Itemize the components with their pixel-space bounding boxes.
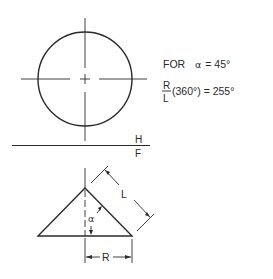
radius-label: R <box>102 251 110 263</box>
plane-label-f: F <box>135 148 141 159</box>
alpha-arrow-upper <box>98 206 102 211</box>
alpha-arrow-lower <box>89 230 93 235</box>
formula-expression: (360°) = 255° <box>172 85 234 97</box>
formula-numerator: R <box>163 80 170 91</box>
cone-drawing: H F FOR α = 45° R L (360°) = 255° L <box>0 0 273 279</box>
slant-length-label: L <box>121 188 127 200</box>
folding-line-group: H F <box>12 134 150 159</box>
r-arrow-left <box>86 255 92 259</box>
formula-alpha-value: = 45° <box>205 58 230 70</box>
angle-alpha-label: α <box>88 213 94 224</box>
plane-label-h: H <box>135 134 142 145</box>
front-view <box>38 166 154 263</box>
formula-denominator: L <box>163 93 169 104</box>
formula-for: FOR <box>163 58 186 70</box>
l-extension-lower <box>137 214 154 231</box>
top-view <box>21 18 147 141</box>
formula: FOR α = 45° R L (360°) = 255° <box>162 58 234 104</box>
r-arrow-right <box>125 255 131 259</box>
l-extension-upper <box>91 166 108 183</box>
formula-line1: FOR α = 45° <box>163 58 230 70</box>
formula-alpha: α <box>195 59 201 70</box>
